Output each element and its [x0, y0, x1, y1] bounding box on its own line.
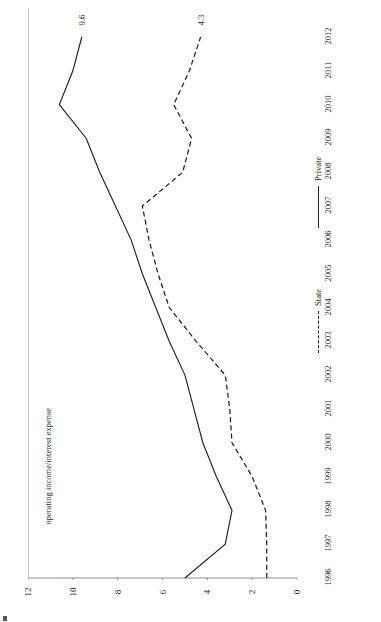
- legend-swatch-state: [318, 311, 319, 353]
- value-tick-label: 0: [292, 581, 302, 603]
- value-tick-label: 6: [158, 581, 168, 603]
- legend-item-state: State: [313, 257, 323, 353]
- year-tick-label: 1996: [323, 560, 333, 594]
- series-line-private: [59, 37, 232, 578]
- year-tick-label: 2001: [323, 391, 333, 425]
- year-tick-label: 2011: [323, 53, 333, 87]
- plot-area: [28, 8, 297, 578]
- legend-label: Private: [313, 157, 323, 181]
- year-tick-label: 2004: [323, 290, 333, 324]
- year-tick-label: 2010: [323, 87, 333, 121]
- series-line-state: [142, 37, 266, 578]
- legend-label: State: [313, 289, 323, 306]
- year-tick-label: 1998: [323, 492, 333, 526]
- year-tick-label: 2009: [323, 120, 333, 154]
- year-tick-label: 2003: [323, 323, 333, 357]
- year-tick-label: 2012: [323, 19, 333, 53]
- value-tick-label: 2: [247, 581, 257, 603]
- value-tick-label: 10: [68, 581, 78, 603]
- year-tick-label: 1997: [323, 526, 333, 560]
- series-end-label-state: 4.3: [196, 9, 206, 31]
- year-tick-label: 2005: [323, 256, 333, 290]
- year-tick-label: 2008: [323, 154, 333, 188]
- year-tick-label: 2002: [323, 357, 333, 391]
- chart-figure: operating income/interest expense 121086…: [0, 0, 381, 622]
- value-tick-label: 12: [23, 581, 33, 603]
- legend-item-private: Private: [313, 132, 323, 228]
- year-tick-label: 2000: [323, 425, 333, 459]
- year-tick-label: 2007: [323, 188, 333, 222]
- series-end-label-private: 9.6: [77, 9, 87, 31]
- year-tick-label: 1999: [323, 459, 333, 493]
- year-tick-label: 2006: [323, 222, 333, 256]
- legend-swatch-private: [318, 186, 319, 228]
- value-tick-label: 4: [202, 581, 212, 603]
- value-tick-label: 8: [113, 581, 123, 603]
- plot-svg: [28, 8, 297, 580]
- page-corner-mark: [3, 616, 7, 621]
